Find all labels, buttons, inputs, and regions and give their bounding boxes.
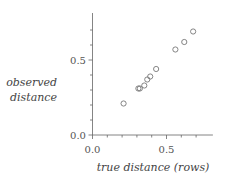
scatter-chart: 0.5 0.0 0.0 0.5 observed distance true d…: [0, 0, 230, 189]
data-point: [154, 66, 159, 71]
axes: [89, 13, 213, 139]
data-point: [148, 74, 153, 79]
data-points: [121, 29, 196, 106]
y-axis-label-line1: observed: [6, 76, 57, 89]
x-tick-label-0.0: 0.0: [85, 144, 101, 155]
data-point: [173, 47, 178, 52]
data-point: [121, 101, 126, 106]
data-point: [145, 77, 150, 82]
x-tick-label-0.5: 0.5: [159, 144, 175, 155]
y-axis-label-line2: distance: [10, 91, 57, 104]
y-tick-label-0.0: 0.0: [70, 130, 86, 141]
data-point: [182, 39, 187, 44]
x-axis-label: true distance (rows): [97, 161, 210, 174]
data-point: [142, 83, 147, 88]
data-point: [191, 29, 196, 34]
y-tick-label-0.5: 0.5: [70, 55, 86, 66]
